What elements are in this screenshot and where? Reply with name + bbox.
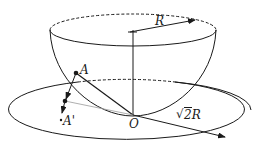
plane-ellipse-right	[175, 82, 251, 110]
rim-back	[50, 14, 216, 30]
point-A	[74, 71, 79, 76]
label-O: O	[129, 118, 139, 130]
label-A-prime: A'	[63, 115, 75, 127]
plane-ellipse-back	[78, 79, 175, 82]
point-exit	[63, 99, 68, 104]
label-R: R	[155, 15, 164, 27]
point-A-prime	[60, 119, 62, 121]
label-sqrt-symbol: √	[176, 108, 184, 120]
label-A: A	[80, 64, 89, 76]
hemisphere-diagram: R A A' O √ 2R	[0, 0, 264, 156]
trajectory-arrow-1	[66, 73, 76, 99]
label-sqrt2R: 2R	[184, 109, 201, 121]
diagram-canvas	[0, 0, 264, 156]
